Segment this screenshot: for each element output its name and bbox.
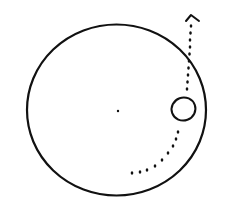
trajectory-dot <box>175 137 178 140</box>
center-dot <box>117 110 119 112</box>
trajectory-dot <box>189 38 192 41</box>
orbit-sketch <box>0 0 225 211</box>
trajectory-dots-lower <box>131 130 180 174</box>
trajectory-dot <box>187 66 190 69</box>
trajectory-dot <box>186 87 189 90</box>
arrowhead-icon <box>186 15 199 21</box>
trajectory-dot <box>154 164 157 167</box>
trajectory-dot <box>131 171 134 174</box>
trajectory-dot <box>177 130 180 133</box>
trajectory-dot <box>187 73 190 76</box>
trajectory-dot <box>189 31 192 34</box>
trajectory-dot <box>188 52 191 55</box>
large-circle <box>27 25 206 196</box>
trajectory-dot <box>189 45 192 48</box>
trajectory-dot <box>190 24 193 27</box>
trajectory-dot <box>161 158 164 161</box>
diagram-canvas: Hand-drawn sketch: large circle with cen… <box>0 0 225 211</box>
trajectory-dot <box>186 80 189 83</box>
trajectory-dot <box>139 170 142 173</box>
trajectory-dot <box>188 59 191 62</box>
small-body-ellipse <box>168 94 198 124</box>
trajectory-dot <box>167 151 170 154</box>
trajectory-dot <box>146 168 149 171</box>
trajectory-dot <box>172 144 175 147</box>
